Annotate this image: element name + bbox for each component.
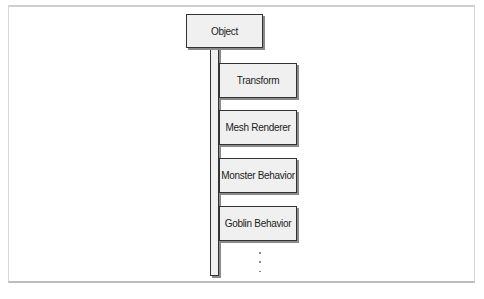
component-node-mesh-renderer: Mesh Renderer <box>219 110 297 145</box>
continuation-ellipsis-icon <box>258 252 262 272</box>
component-label: Monster Behavior <box>221 170 295 181</box>
component-label: Mesh Renderer <box>225 122 290 133</box>
component-node-monster-behavior: Monster Behavior <box>219 158 297 193</box>
ellipsis-dot <box>259 261 261 263</box>
component-connector-bar <box>210 48 219 276</box>
object-node: Object <box>186 14 263 48</box>
object-label: Object <box>211 26 238 37</box>
ellipsis-dot <box>259 271 261 273</box>
component-label: Transform <box>237 75 280 86</box>
component-node-transform: Transform <box>219 63 297 98</box>
component-node-goblin-behavior: Goblin Behavior <box>219 206 297 241</box>
ellipsis-dot <box>259 252 261 254</box>
component-label: Goblin Behavior <box>225 218 292 229</box>
